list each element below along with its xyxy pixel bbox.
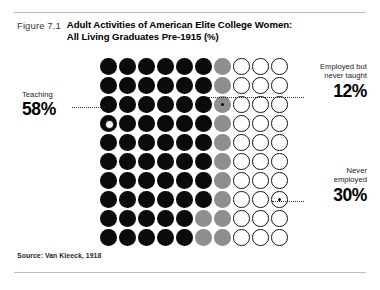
dot-gray [214,77,231,94]
dot-cell [213,76,232,95]
dot-cell [99,114,118,133]
dot-cell [232,228,251,247]
callout-never-value: 30% [333,186,367,205]
dot-black [119,58,136,75]
dot-cell [118,95,137,114]
dot-white [252,134,269,151]
dot-black [119,172,136,189]
dot-cell [251,133,270,152]
dot-cell [175,190,194,209]
dot-cell [232,57,251,76]
dot-cell [118,57,137,76]
dot-cell [270,114,289,133]
callout-teaching-value: 58% [22,100,56,119]
dot-black [100,210,117,227]
dot-cell [251,228,270,247]
dot-cell [118,190,137,209]
dot-cell [194,57,213,76]
dot-cell [213,133,232,152]
dot-cell [270,171,289,190]
dot-black [195,96,212,113]
dot-gray [195,210,212,227]
callout-never-label-line-2: employed [333,175,367,184]
dot-white [252,172,269,189]
dot-black [100,96,117,113]
dot-white [271,210,288,227]
leader-line-never-employed [272,201,304,202]
dot-white [233,77,250,94]
dot-black [100,191,117,208]
dot-black [176,210,193,227]
dot-cell [156,95,175,114]
dot-gray [214,58,231,75]
dot-cell [194,228,213,247]
dot-black [119,134,136,151]
dot-white [233,172,250,189]
dot-black [138,210,155,227]
dot-white [252,229,269,246]
dot-white [252,153,269,170]
dot-cell [270,190,289,209]
dot-white [271,96,288,113]
dot-cell [137,95,156,114]
dot-cell [99,228,118,247]
dot-black [138,134,155,151]
dot-cell [137,209,156,228]
callout-employed-label-line-2: never taught [320,71,367,80]
dot-matrix-chart [99,57,289,247]
leader-anchor-ring [105,120,113,128]
dot-black [138,191,155,208]
dot-black [176,229,193,246]
dot-black [195,134,212,151]
dot-cell [99,209,118,228]
dot-cell [270,209,289,228]
dot-black [100,134,117,151]
dot-black [138,153,155,170]
dot-white [271,229,288,246]
dot-cell [194,209,213,228]
dot-gray [214,229,231,246]
dot-black [119,210,136,227]
dot-black [119,191,136,208]
dot-black [157,96,174,113]
dot-black [138,229,155,246]
dot-cell [99,171,118,190]
dot-cell [251,114,270,133]
dot-black [157,191,174,208]
dot-cell [270,76,289,95]
dot-cell [232,152,251,171]
dot-black [138,77,155,94]
dot-cell [251,209,270,228]
dot-black [157,115,174,132]
dot-cell [118,171,137,190]
dot-cell [99,95,118,114]
figure-container: Figure 7.1 Adult Activities of American … [0,0,380,290]
dot-cell [175,152,194,171]
callout-employed-never-taught: Employed but never taught 12% [320,62,367,101]
dot-cell [118,228,137,247]
dot-cell [156,209,175,228]
dot-cell [175,133,194,152]
dot-white [252,115,269,132]
dot-cell [194,76,213,95]
dot-cell [213,228,232,247]
dot-black [157,229,174,246]
dot-white [271,134,288,151]
dot-cell [251,57,270,76]
dot-black [195,77,212,94]
dot-cell [232,209,251,228]
dot-white [271,172,288,189]
callout-teaching: Teaching 58% [22,90,56,119]
dot-white [233,229,250,246]
dot-gray [214,153,231,170]
dot-white [233,134,250,151]
dot-cell [270,152,289,171]
dot-black [119,115,136,132]
dot-cell [194,133,213,152]
dot-cell [270,133,289,152]
dot-black [157,153,174,170]
dot-gray [214,134,231,151]
dot-gray [214,115,231,132]
dot-cell [213,114,232,133]
dot-cell [175,114,194,133]
